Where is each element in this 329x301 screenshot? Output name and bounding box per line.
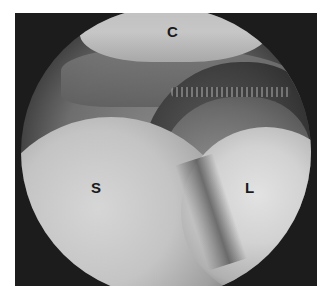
- endoscopic-field: [21, 13, 311, 286]
- fold-fringe: [171, 87, 291, 97]
- photo-frame: [15, 13, 317, 286]
- label-l: L: [245, 180, 254, 195]
- label-c: C: [167, 24, 178, 39]
- label-s: S: [91, 180, 101, 195]
